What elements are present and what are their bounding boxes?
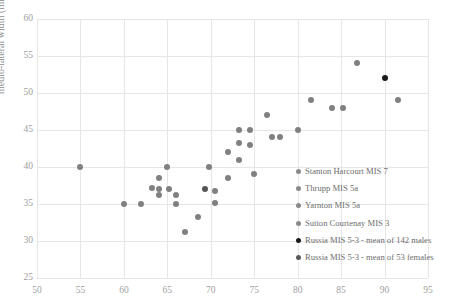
- x-tick-label: 70: [191, 286, 231, 296]
- y-tick-label: 45: [3, 125, 33, 135]
- data-point: [212, 188, 218, 194]
- y-tick-label: 60: [3, 14, 33, 24]
- y-tick-label: 40: [3, 162, 33, 172]
- data-point: [77, 164, 83, 170]
- x-tick-label: 75: [234, 286, 274, 296]
- legend-item: Russia MIS 5-3 - mean of 53 females: [296, 249, 452, 266]
- legend-item-label: Russia MIS 5-3 - mean of 53 females: [305, 253, 434, 262]
- data-point: [164, 164, 170, 170]
- x-tick-label: 85: [321, 286, 361, 296]
- data-point: [269, 134, 275, 140]
- data-point: [247, 127, 253, 133]
- data-point: [251, 171, 257, 177]
- x-tick-label: 55: [60, 286, 100, 296]
- legend-item-label: Stanton Harcourt MIS 7: [305, 167, 388, 176]
- data-point: [236, 157, 242, 163]
- data-point: [295, 127, 301, 133]
- data-point: [236, 127, 242, 133]
- x-tick-label: 60: [104, 286, 144, 296]
- gridline-vertical: [37, 19, 38, 278]
- data-point: [236, 140, 242, 146]
- legend-item: Thrupp MIS 5a: [296, 180, 452, 197]
- y-tick-label: 30: [3, 236, 33, 246]
- x-tick-label: 50: [17, 286, 57, 296]
- data-point: [156, 175, 162, 181]
- legend-item-label: Sutton Courtenay MIS 3: [305, 219, 389, 228]
- legend-item: Sutton Courtenay MIS 3: [296, 215, 452, 232]
- data-point: [195, 214, 201, 220]
- data-point: [202, 186, 208, 192]
- data-point: [329, 105, 335, 111]
- x-tick-label: 65: [147, 286, 187, 296]
- legend-item: Stanton Harcourt MIS 7: [296, 163, 452, 180]
- legend-marker-icon: [296, 203, 301, 208]
- legend-marker-icon: [296, 186, 301, 191]
- data-point: [206, 164, 212, 170]
- x-axis-tick-labels: 50556065707580859095: [0, 286, 452, 300]
- data-point: [156, 192, 162, 198]
- gridline-horizontal: [37, 130, 428, 131]
- gridline-vertical: [211, 19, 212, 278]
- data-point: [264, 112, 270, 118]
- gridline-vertical: [254, 19, 255, 278]
- data-point: [212, 200, 218, 206]
- scatter-chart: medio-lateral width (mm) 253035404550556…: [0, 0, 452, 307]
- data-point: [149, 185, 155, 191]
- data-point: [225, 175, 231, 181]
- legend-marker-icon: [296, 221, 301, 226]
- y-tick-label: 25: [3, 273, 33, 283]
- legend-marker-icon: [296, 255, 301, 260]
- gridline-horizontal: [37, 56, 428, 57]
- legend-marker-icon: [296, 238, 301, 243]
- data-point: [247, 142, 253, 148]
- x-tick-label: 90: [365, 286, 405, 296]
- data-point: [225, 149, 231, 155]
- legend-item-label: Russia MIS 5-3 - mean of 142 males: [305, 236, 431, 245]
- x-tick-label: 95: [408, 286, 448, 296]
- data-point: [173, 192, 179, 198]
- data-point: [340, 105, 346, 111]
- data-point: [382, 75, 388, 81]
- x-tick-label: 80: [278, 286, 318, 296]
- legend-item-label: Thrupp MIS 5a: [305, 184, 358, 193]
- gridline-horizontal: [37, 93, 428, 94]
- y-tick-label: 50: [3, 88, 33, 98]
- data-point: [308, 97, 314, 103]
- data-point: [182, 229, 188, 235]
- gridline-vertical: [80, 19, 81, 278]
- data-point: [277, 134, 283, 140]
- legend-marker-icon: [296, 169, 301, 174]
- gridline-vertical: [124, 19, 125, 278]
- gridline-vertical: [167, 19, 168, 278]
- data-point: [395, 97, 401, 103]
- data-point: [121, 201, 127, 207]
- legend-item: Yarnton MIS 5a: [296, 197, 452, 214]
- data-point: [173, 201, 179, 207]
- gridline-horizontal: [37, 278, 428, 279]
- data-point: [354, 60, 360, 66]
- legend-item-label: Yarnton MIS 5a: [305, 201, 360, 210]
- y-axis-tick-labels: 2530354045505560: [0, 0, 33, 307]
- chart-legend: Stanton Harcourt MIS 7Thrupp MIS 5aYarnt…: [296, 163, 452, 266]
- y-tick-label: 55: [3, 51, 33, 61]
- data-point: [138, 201, 144, 207]
- legend-item: Russia MIS 5-3 - mean of 142 males: [296, 232, 452, 249]
- y-tick-label: 35: [3, 199, 33, 209]
- gridline-horizontal: [37, 19, 428, 20]
- data-point: [166, 186, 172, 192]
